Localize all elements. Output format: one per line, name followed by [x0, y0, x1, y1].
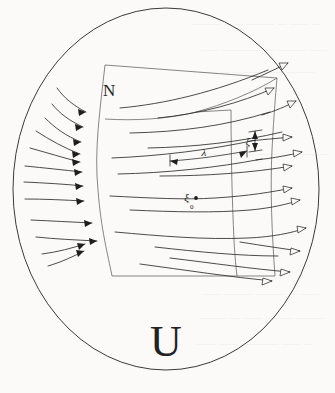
- figure-container: — —— — ——— —— ——— —— ——— — ———— —— ——— —…: [0, 0, 335, 393]
- flow-line-left: [36, 131, 80, 154]
- lambda-label: λ: [201, 146, 207, 158]
- arrowhead-solid-icon: [74, 169, 82, 176]
- domain-label-U: U: [150, 317, 182, 366]
- surface-label-N: N: [103, 81, 115, 100]
- flow-line-left: [36, 237, 97, 241]
- arrowhead-solid-icon: [252, 143, 258, 151]
- arrowhead-open-icon: [291, 198, 300, 205]
- surface-region-inner-edge: [231, 110, 237, 276]
- arrowhead-solid-icon: [84, 220, 92, 227]
- flow-line-through: [112, 140, 256, 158]
- base-point-dot: [194, 196, 198, 200]
- arrowhead-open-icon: [283, 164, 292, 171]
- flow-line-through: [130, 112, 270, 133]
- arrowhead-open-icon: [283, 186, 292, 193]
- arrowhead-solid-icon: [72, 159, 80, 166]
- flow-line-through: [140, 264, 272, 281]
- flow-field-left: [24, 88, 97, 266]
- flow-line-through: [118, 159, 262, 174]
- base-point-marker: ξ 0: [184, 191, 198, 211]
- flow-line-left: [24, 182, 83, 186]
- arrowhead-open-icon: [280, 269, 290, 276]
- arrowhead-open-icon: [262, 278, 272, 285]
- arrowhead-open-icon: [293, 150, 302, 157]
- flow-field-right: [110, 63, 306, 285]
- xi-bracket-top-tick: [249, 130, 262, 132]
- arrowhead-solid-icon: [76, 250, 84, 257]
- flow-line-left: [57, 88, 86, 112]
- flow-line-through: [115, 228, 306, 239]
- arrowhead-open-icon: [265, 88, 274, 95]
- xi-zero-subscript: 0: [190, 203, 194, 211]
- arrowhead-open-icon: [287, 101, 296, 108]
- outer-domain-ellipse: [13, 8, 319, 370]
- flow-line-through: [130, 200, 300, 212]
- flow-line-left: [25, 166, 82, 172]
- flow-line-left: [45, 118, 81, 142]
- flow-line-through: [160, 166, 292, 176]
- flow-line-left: [31, 220, 92, 223]
- xi-bracket-bottom-tick: [249, 150, 262, 152]
- arrowhead-solid-icon: [77, 243, 85, 250]
- arrowhead-open-icon: [297, 226, 306, 233]
- flow-line-left: [25, 199, 84, 201]
- xi-transverse-label: ξ: [246, 136, 251, 148]
- arrowhead-solid-icon: [252, 131, 258, 139]
- arrowhead-solid-icon: [76, 198, 84, 205]
- arrowhead-solid-icon: [75, 183, 83, 190]
- arrowhead-open-icon: [283, 134, 292, 141]
- arrowhead-solid-icon: [89, 238, 97, 245]
- flow-line-through: [155, 247, 278, 256]
- figure-canvas: λ ξ ξ 0 N U: [0, 0, 335, 393]
- flow-line-through: [158, 88, 274, 118]
- xi-zero-label: ξ: [184, 191, 189, 204]
- flow-line-through-basepoint: [110, 188, 292, 199]
- arrowhead-solid-icon: [170, 159, 178, 165]
- arrowhead-solid-icon: [239, 151, 247, 158]
- arrowhead-open-icon: [290, 248, 300, 255]
- flow-line-through: [170, 258, 290, 272]
